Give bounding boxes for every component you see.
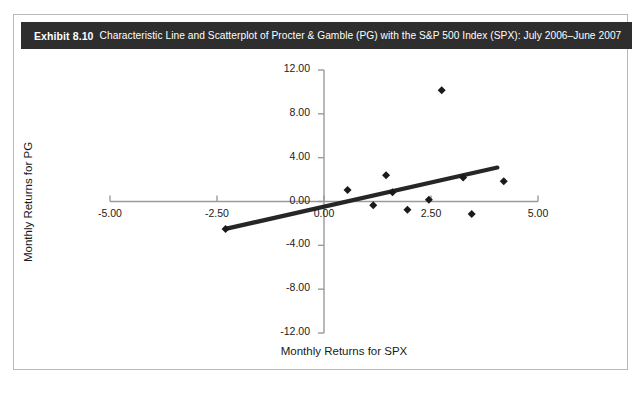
exhibit-frame bbox=[13, 14, 628, 370]
exhibit-title: Characteristic Line and Scatterplot of P… bbox=[100, 30, 622, 41]
exhibit-header: Exhibit 8.10 Characteristic Line and Sca… bbox=[21, 22, 632, 49]
exhibit-label: Exhibit 8.10 bbox=[34, 30, 94, 42]
